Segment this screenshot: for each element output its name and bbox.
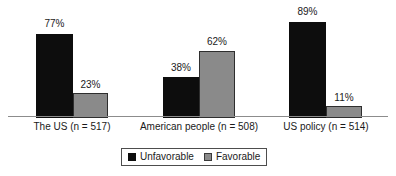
bar-unfavorable-2 (289, 22, 326, 118)
bar-favorable-1 (199, 51, 235, 118)
x-axis-line (8, 116, 388, 117)
bar-value-favorable-1: 62% (199, 36, 235, 47)
plot-area: 77% 23% 38% 62% 89% 11% (0, 0, 396, 118)
bar-chart: 77% 23% 38% 62% 89% 11% The US (n = 517)… (0, 0, 396, 176)
legend-swatch-icon-favorable (204, 153, 212, 161)
bar-unfavorable-1 (163, 77, 199, 118)
bar-favorable-0 (73, 93, 108, 118)
legend-item-favorable: Favorable (204, 151, 260, 163)
legend-item-unfavorable: Unfavorable (128, 151, 194, 163)
category-label-0: The US (n = 517) (8, 120, 136, 134)
bar-value-unfavorable-1: 38% (163, 62, 199, 73)
category-label-2: US policy (n = 514) (262, 120, 390, 134)
legend-swatch-icon-unfavorable (128, 153, 136, 161)
legend-label-favorable: Favorable (216, 151, 260, 163)
bar-value-unfavorable-0: 77% (36, 18, 73, 29)
category-label-1: American people (n = 508) (135, 120, 263, 134)
bar-value-favorable-0: 23% (73, 79, 108, 90)
chart-legend: Unfavorable Favorable (121, 148, 267, 166)
category-axis-labels: The US (n = 517) American people (n = 50… (0, 120, 396, 138)
bar-value-favorable-2: 11% (326, 92, 362, 103)
legend-label-unfavorable: Unfavorable (140, 151, 194, 163)
bar-unfavorable-0 (36, 34, 73, 118)
bar-value-unfavorable-2: 89% (289, 6, 326, 17)
